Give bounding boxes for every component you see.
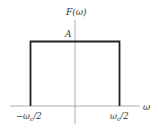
y-axis-label: F(ω) (65, 7, 87, 17)
amplitude-label: A (64, 29, 72, 39)
x-axis-label: ω (143, 102, 151, 112)
right-tick-label: ωc/2 (110, 111, 129, 122)
rect-pulse-diagram: F(ω) A ω −ωc/2 ωc/2 (0, 0, 158, 128)
left-tick-label: −ωc/2 (16, 111, 42, 122)
